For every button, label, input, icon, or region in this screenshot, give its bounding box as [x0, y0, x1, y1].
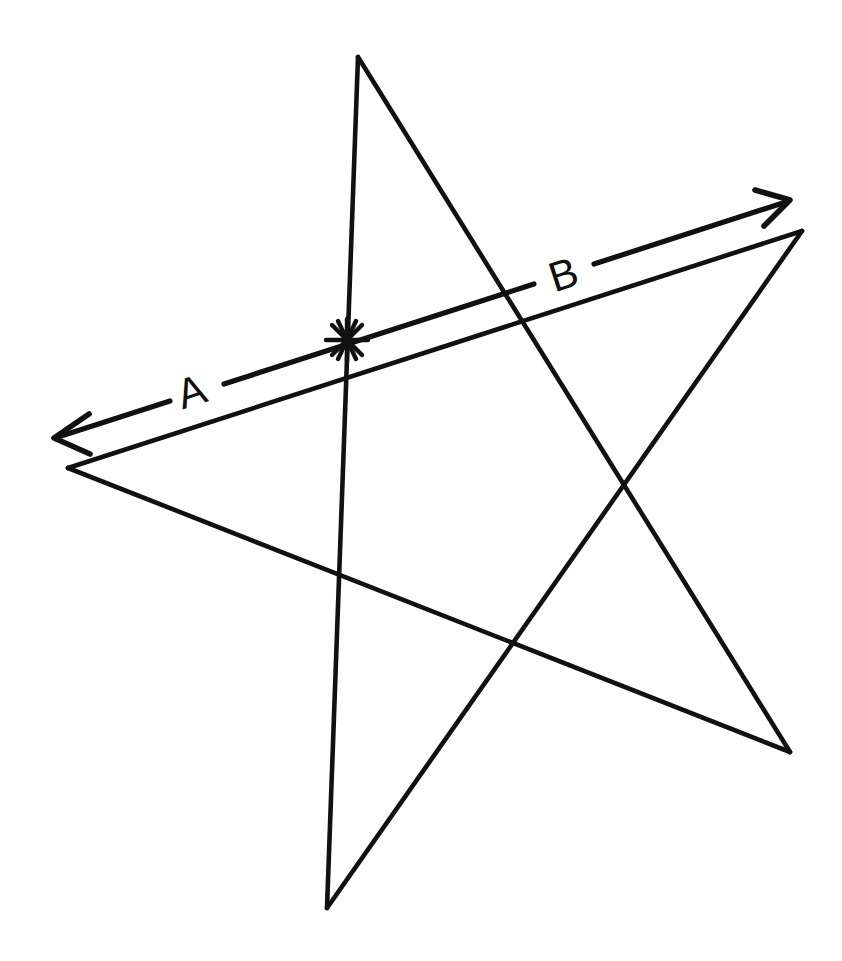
- canvas-background: [0, 0, 842, 961]
- star-with-line-diagram: A B: [0, 0, 842, 961]
- intersection-asterisk-icon: [326, 319, 368, 361]
- figure-canvas: A B: [0, 0, 842, 961]
